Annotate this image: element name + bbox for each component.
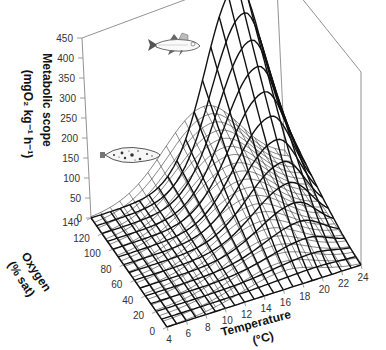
- surface-chart: 0501001502002503003504004500204060801001…: [0, 0, 386, 350]
- tick-label: 140: [62, 217, 79, 228]
- pikeperch-fish-icon: [148, 33, 200, 56]
- tick-label: 16: [280, 297, 292, 308]
- x-axis-unit: (°C): [251, 329, 275, 348]
- tick-label: 80: [100, 264, 112, 275]
- tick-label: 20: [319, 284, 331, 295]
- tick-label: 100: [84, 248, 101, 259]
- tick-label: 24: [357, 272, 369, 283]
- tick-label: 40: [122, 295, 134, 306]
- tick-label: 120: [73, 233, 90, 244]
- z-axis-unit: (mgO₂ kg⁻¹ h⁻¹): [21, 70, 35, 159]
- tick-label: 22: [338, 278, 350, 289]
- tick-label: 450: [56, 33, 73, 44]
- tick-label: 100: [63, 173, 80, 184]
- flatfish-icon: [100, 147, 160, 162]
- pikeperch-surface-mesh: [91, 0, 361, 327]
- tick-label: 18: [299, 291, 311, 302]
- tick-label: 50: [70, 193, 82, 204]
- tick-label: 250: [60, 113, 77, 124]
- tick-label: 8: [205, 322, 211, 333]
- z-axis-title: Metabolic scope: [40, 53, 54, 147]
- tick-label: 20: [133, 310, 145, 321]
- axis-ticks: 0501001502002503003504004500204060801001…: [56, 33, 369, 345]
- tick-label: 0: [149, 326, 155, 337]
- tick-label: 150: [62, 153, 79, 164]
- tick-label: 400: [57, 53, 74, 64]
- tick-label: 4: [166, 334, 172, 345]
- tick-label: 300: [59, 93, 76, 104]
- tick-label: 60: [111, 279, 123, 290]
- tick-label: 200: [61, 133, 78, 144]
- tick-label: 350: [58, 73, 75, 84]
- tick-label: 6: [186, 328, 192, 339]
